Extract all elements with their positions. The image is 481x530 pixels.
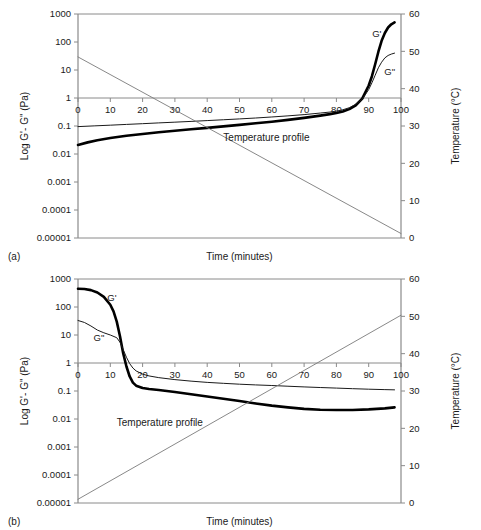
chart-b-svg: 0.000010.00010.0010.010.1110100100001020… xyxy=(0,265,481,530)
chart-b-canvas: 0.000010.00010.0010.010.1110100100001020… xyxy=(0,265,481,530)
temperature-profile-annotation: Temperature profile xyxy=(223,132,310,143)
chart-b-labels: Temperature profileG'G"Time (minutes)Log… xyxy=(8,292,461,527)
x-tick-label: 50 xyxy=(234,369,245,380)
y-tick-label-left: 0.01 xyxy=(53,413,72,424)
y-axis-title-right: Temperature (°C) xyxy=(450,353,461,430)
y-tick-label-right: 30 xyxy=(409,120,420,131)
y-tick-label-left: 0.001 xyxy=(47,176,71,187)
x-axis-title: Time (minutes) xyxy=(206,251,272,262)
y-tick-label-left: 10 xyxy=(60,329,71,340)
panel-label: (b) xyxy=(8,516,20,527)
series-temperature-profile xyxy=(78,57,401,234)
x-tick-label: 90 xyxy=(363,369,374,380)
x-tick-label: 0 xyxy=(75,369,80,380)
x-axis-title: Time (minutes) xyxy=(206,516,272,527)
x-tick-label: 80 xyxy=(331,369,342,380)
y-axis-title-left: Log G'- G" (Pa) xyxy=(19,92,30,160)
x-tick-label: 10 xyxy=(105,369,116,380)
y-tick-label-left: 1000 xyxy=(50,8,71,19)
x-tick-label: 20 xyxy=(137,104,148,115)
series-loss-modulus xyxy=(78,53,395,126)
y-tick-label-left: 1000 xyxy=(50,273,71,284)
y-tick-label-left: 0.01 xyxy=(53,148,72,159)
chart-panel-b: 0.000010.00010.0010.010.1110100100001020… xyxy=(0,265,481,530)
y-tick-label-left: 0.1 xyxy=(58,385,71,396)
y-tick-label-left: 1 xyxy=(66,92,71,103)
y-tick-label-right: 30 xyxy=(409,385,420,396)
x-tick-label: 70 xyxy=(299,104,310,115)
series-temperature-profile xyxy=(78,315,401,499)
y-tick-label-right: 60 xyxy=(409,273,420,284)
y-tick-label-right: 60 xyxy=(409,8,420,19)
y-tick-label-left: 0.0001 xyxy=(42,469,71,480)
y-tick-label-left: 10 xyxy=(60,64,71,75)
chart-a-canvas: 0.000010.00010.0010.010.1110100100001020… xyxy=(0,0,481,265)
y-tick-label-left: 1 xyxy=(66,357,71,368)
y-tick-label-right: 0 xyxy=(409,497,414,508)
chart-panel-a: 0.000010.00010.0010.010.1110100100001020… xyxy=(0,0,481,265)
series-storage-modulus xyxy=(78,289,395,410)
chart-a-svg: 0.000010.00010.0010.010.1110100100001020… xyxy=(0,0,481,265)
x-tick-label: 40 xyxy=(202,369,213,380)
x-tick-label: 100 xyxy=(393,369,409,380)
y-tick-label-right: 20 xyxy=(409,423,420,434)
y-tick-label-left: 0.001 xyxy=(47,441,71,452)
y-tick-label-right: 0 xyxy=(409,232,414,243)
x-tick-label: 90 xyxy=(363,104,374,115)
y-tick-label-left: 0.0001 xyxy=(42,204,71,215)
chart-b-axes: 0.000010.00010.0010.010.1110100100001020… xyxy=(37,273,420,508)
y-tick-label-left: 0.00001 xyxy=(37,497,71,508)
y-tick-label-right: 40 xyxy=(409,83,420,94)
x-tick-label: 0 xyxy=(75,104,80,115)
y-axis-title-right: Temperature (°C) xyxy=(450,88,461,165)
figure-container: 0.000010.00010.0010.010.1110100100001020… xyxy=(0,0,481,530)
chart-b-series xyxy=(78,289,401,500)
curve-label-storage-modulus: G' xyxy=(372,28,381,39)
x-tick-label: 100 xyxy=(393,104,409,115)
x-tick-label: 50 xyxy=(234,104,245,115)
y-tick-label-right: 10 xyxy=(409,460,420,471)
panel-label: (a) xyxy=(8,251,20,262)
y-tick-label-right: 20 xyxy=(409,158,420,169)
curve-label-storage-modulus: G' xyxy=(107,292,116,303)
y-tick-label-left: 0.1 xyxy=(58,120,71,131)
x-tick-label: 40 xyxy=(202,104,213,115)
y-tick-label-left: 100 xyxy=(55,36,71,47)
y-axis-title-left: Log G'- G" (Pa) xyxy=(19,357,30,425)
series-storage-modulus xyxy=(78,22,395,145)
y-tick-label-right: 50 xyxy=(409,311,420,322)
x-tick-label: 10 xyxy=(105,104,116,115)
x-tick-label: 60 xyxy=(267,369,278,380)
y-tick-label-right: 10 xyxy=(409,195,420,206)
chart-a-labels: Temperature profileG'G"Time (minutes)Log… xyxy=(8,28,461,262)
y-tick-label-left: 100 xyxy=(55,301,71,312)
y-tick-label-left: 0.00001 xyxy=(37,232,71,243)
curve-label-loss-modulus: G" xyxy=(384,66,395,77)
x-tick-label: 30 xyxy=(170,369,181,380)
y-tick-label-right: 40 xyxy=(409,348,420,359)
chart-a-series xyxy=(78,22,401,233)
y-tick-label-right: 50 xyxy=(409,46,420,57)
curve-label-loss-modulus: G" xyxy=(94,332,105,343)
temperature-profile-annotation: Temperature profile xyxy=(117,417,204,428)
x-tick-label: 60 xyxy=(267,104,278,115)
